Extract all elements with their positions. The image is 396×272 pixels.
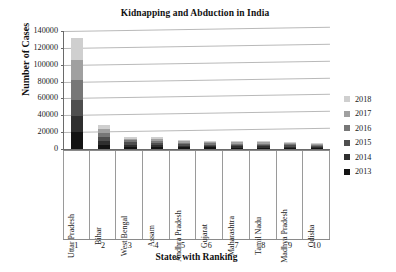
legend-swatch-icon (344, 169, 350, 175)
bar-segment-2017[interactable] (71, 60, 83, 81)
chart-title: Kidnapping and Abduction in India (60, 8, 330, 18)
stacked-bar[interactable] (257, 141, 269, 149)
bar-segment-2013[interactable] (178, 147, 190, 149)
stacked-bar[interactable] (71, 38, 83, 149)
x-axis-rank-label: 7 (223, 239, 250, 252)
x-axis-rank-label: 6 (197, 239, 224, 252)
chart-container: Kidnapping and Abduction in India Number… (0, 0, 396, 272)
legend-label: 2017 (355, 109, 371, 118)
legend-label: 2016 (355, 124, 371, 133)
bar-column[interactable] (71, 31, 83, 149)
stacked-bar[interactable] (178, 140, 190, 149)
bar-segment-2013[interactable] (257, 148, 269, 149)
x-axis-rank-label: 5 (170, 239, 197, 252)
bar-segment-2014[interactable] (71, 116, 83, 132)
bar-column[interactable] (98, 31, 110, 149)
bar-column[interactable] (284, 31, 296, 149)
x-axis-rank-label: 8 (250, 239, 277, 252)
bar-column[interactable] (231, 31, 243, 149)
x-axis-category-cell: Tamil Nadu (250, 151, 277, 239)
legend-label: 2014 (355, 153, 371, 162)
x-axis-rank-label: 4 (143, 239, 170, 252)
x-axis-rank-row: 12345678910 (63, 239, 330, 252)
legend-item-2014[interactable]: 2014 (344, 150, 396, 165)
legend-label: 2013 (355, 167, 371, 176)
legend-swatch-icon (344, 125, 350, 131)
y-axis-tick-label: 80000 (14, 78, 58, 86)
x-axis-category-cell: Uttar Pradesh (63, 151, 90, 239)
bar-segment-2015[interactable] (71, 100, 83, 116)
stacked-bar[interactable] (124, 137, 136, 149)
bar-segment-2013[interactable] (98, 145, 110, 149)
y-axis-tick-label: 140000 (14, 27, 58, 35)
stacked-bar[interactable] (231, 141, 243, 149)
x-axis-category-cell: Assam (143, 151, 170, 239)
x-axis-category-cell: Odisha (303, 151, 330, 239)
bar-column[interactable] (124, 31, 136, 149)
y-axis-tick-label: 100000 (14, 61, 58, 69)
x-axis-category-cell: Madhya Pradesh (277, 151, 304, 239)
legend-swatch-icon (344, 154, 350, 160)
plot-area (63, 31, 330, 150)
legend-swatch-icon (344, 140, 350, 146)
x-axis-category-cell: Bihar (90, 151, 117, 239)
legend-item-2015[interactable]: 2015 (344, 136, 396, 151)
bar-column[interactable] (204, 31, 216, 149)
stacked-bar[interactable] (311, 143, 323, 149)
bar-segment-2013[interactable] (284, 148, 296, 149)
y-axis-tick-label: 0 (14, 145, 58, 153)
bar-column[interactable] (257, 31, 269, 149)
x-axis-category-cell: Andhra Pradesh (170, 151, 197, 239)
stacked-bar[interactable] (284, 142, 296, 149)
bar-segment-2013[interactable] (311, 148, 323, 149)
bar-column[interactable] (151, 31, 163, 149)
x-axis-rank-label: 2 (90, 239, 117, 252)
bar-segment-2018[interactable] (71, 38, 83, 60)
x-axis-rank-label: 3 (116, 239, 143, 252)
legend-item-2018[interactable]: 2018 (344, 92, 396, 107)
y-axis-tick-label: 60000 (14, 94, 58, 102)
x-axis-category-band: Uttar PradeshBiharWest BengalAssamAndhra… (63, 150, 330, 240)
stacked-bar[interactable] (98, 125, 110, 149)
x-axis-category-cell: Maharashtra (223, 151, 250, 239)
stacked-bar[interactable] (204, 141, 216, 149)
legend-swatch-icon (344, 111, 350, 117)
bar-segment-2013[interactable] (204, 147, 216, 149)
y-axis-tick-label: 20000 (14, 128, 58, 136)
x-axis-category-cell: Gujarat (197, 151, 224, 239)
legend-label: 2018 (355, 95, 371, 104)
chart-legend: 201820172016201520142013 (344, 92, 396, 179)
y-axis-tick-label: 120000 (14, 44, 58, 52)
legend-item-2013[interactable]: 2013 (344, 165, 396, 180)
x-axis-rank-label: 1 (63, 239, 90, 252)
x-axis-category-cell: West Bengal (116, 151, 143, 239)
x-axis-rank-label: 10 (303, 239, 330, 252)
bar-segment-2013[interactable] (124, 147, 136, 149)
bar-segment-2016[interactable] (71, 80, 83, 100)
bar-column[interactable] (311, 31, 323, 149)
bar-column[interactable] (178, 31, 190, 149)
x-axis-title: States with Ranking (63, 252, 330, 262)
bar-segment-2013[interactable] (151, 147, 163, 149)
stacked-bar[interactable] (151, 137, 163, 149)
legend-item-2016[interactable]: 2016 (344, 121, 396, 136)
y-axis-tick-label: 40000 (14, 111, 58, 119)
bar-segment-2013[interactable] (231, 148, 243, 149)
legend-item-2017[interactable]: 2017 (344, 107, 396, 122)
legend-label: 2015 (355, 138, 371, 147)
bar-segment-2013[interactable] (71, 132, 83, 149)
legend-swatch-icon (344, 96, 350, 102)
y-axis-tick-labels: 140000120000100000800006000040000200000 (10, 0, 58, 272)
x-axis-rank-label: 9 (277, 239, 304, 252)
